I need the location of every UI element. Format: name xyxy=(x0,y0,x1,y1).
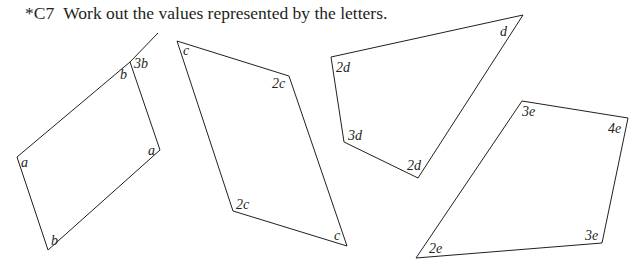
parallelogram-ab-outline xyxy=(17,62,160,250)
figure-quadrilateral-d: d 2d 3d 2d xyxy=(331,15,523,178)
angle-label: b xyxy=(51,233,58,248)
angle-label: 2e xyxy=(429,241,442,256)
figure-parallelogram-ab: b 3b a a b xyxy=(17,33,160,250)
angle-label: 2c xyxy=(272,76,286,91)
parallelogram-c-outline xyxy=(177,41,347,246)
angle-label: 3e xyxy=(521,104,535,119)
angle-label: 3e xyxy=(584,228,598,243)
figures-canvas: b 3b a a b c 2c 2c c d 2d 3d 2d 3e 4e 3e… xyxy=(0,0,640,268)
angle-label: 2d xyxy=(336,60,351,75)
angle-label: 3b xyxy=(133,56,148,71)
angle-label: 4e xyxy=(608,121,621,136)
angle-label: b xyxy=(120,67,127,82)
figure-parallelogram-c: c 2c 2c c xyxy=(177,41,347,246)
angle-label: a xyxy=(21,155,28,170)
angle-label: c xyxy=(334,228,341,243)
angle-label: 3d xyxy=(347,128,363,143)
angle-label: 2c xyxy=(236,197,250,212)
angle-label: 2d xyxy=(407,158,422,173)
angle-label: d xyxy=(500,24,508,39)
quadrilateral-d-outline xyxy=(331,15,523,178)
angle-label: a xyxy=(148,143,155,158)
angle-label: c xyxy=(183,43,190,58)
figure-quadrilateral-e: 3e 4e 3e 2e xyxy=(416,101,628,258)
